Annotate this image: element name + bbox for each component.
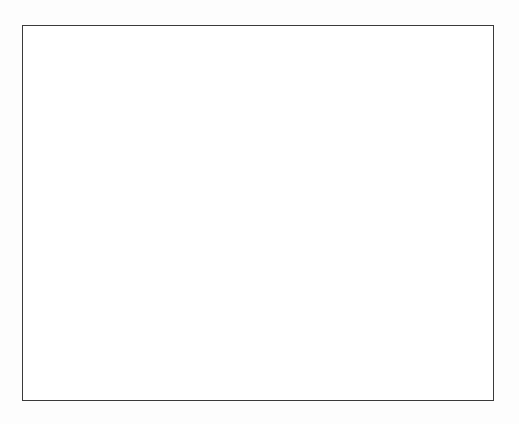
figure-root <box>0 0 519 424</box>
plot-border <box>22 25 494 401</box>
